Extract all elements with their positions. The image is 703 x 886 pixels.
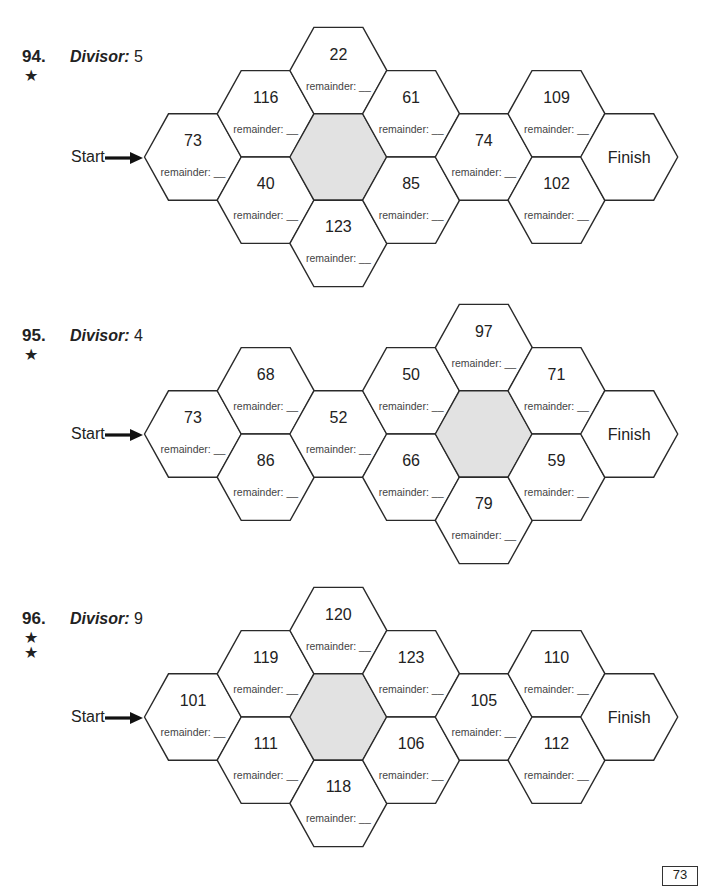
page-number-box: 73	[662, 866, 698, 886]
remainder-blank[interactable]: remainder: __	[379, 400, 444, 412]
cell-number: 102	[543, 175, 570, 192]
remainder-blank[interactable]: remainder: __	[161, 166, 226, 178]
remainder-blank[interactable]: remainder: __	[524, 769, 589, 781]
remainder-blank[interactable]: remainder: __	[379, 123, 444, 135]
cell-number: 50	[402, 366, 420, 383]
cell-number: 22	[330, 46, 348, 63]
arrow-head-icon	[130, 152, 143, 164]
remainder-blank[interactable]: remainder: __	[233, 400, 298, 412]
cell-number: 119	[253, 649, 279, 666]
remainder-blank[interactable]: remainder: __	[233, 486, 298, 498]
remainder-blank[interactable]: remainder: __	[379, 769, 444, 781]
cell-number: 59	[548, 452, 566, 469]
cell-number: 106	[398, 735, 425, 752]
remainder-blank[interactable]: remainder: __	[233, 683, 298, 695]
remainder-blank[interactable]: remainder: __	[451, 726, 516, 738]
remainder-blank[interactable]: remainder: __	[233, 209, 298, 221]
remainder-blank[interactable]: remainder: __	[524, 400, 589, 412]
remainder-blank[interactable]: remainder: __	[306, 80, 371, 92]
puzzle-95-board: 73remainder: __68remainder: __86remainde…	[105, 304, 678, 563]
cell-number: 73	[184, 132, 202, 149]
cell-number: 109	[543, 89, 570, 106]
remainder-blank[interactable]: remainder: __	[524, 123, 589, 135]
finish-label: Finish	[608, 149, 651, 166]
cell-number: 123	[325, 218, 352, 235]
cell-number: 97	[475, 323, 493, 340]
cell-number: 66	[402, 452, 420, 469]
cell-number: 101	[180, 692, 207, 709]
remainder-blank[interactable]: remainder: __	[524, 209, 589, 221]
remainder-blank[interactable]: remainder: __	[306, 443, 371, 455]
remainder-blank[interactable]: remainder: __	[451, 166, 516, 178]
cell-number: 116	[253, 89, 279, 106]
cell-number: 73	[184, 409, 202, 426]
cell-number: 74	[475, 132, 493, 149]
remainder-blank[interactable]: remainder: __	[451, 357, 516, 369]
remainder-blank[interactable]: remainder: __	[306, 252, 371, 264]
cell-number: 61	[402, 89, 420, 106]
puzzle-96-board: 101remainder: __119remainder: __111remai…	[105, 587, 678, 846]
cell-number: 40	[257, 175, 275, 192]
arrow-head-icon	[130, 712, 143, 724]
cell-number: 71	[548, 366, 566, 383]
remainder-blank[interactable]: remainder: __	[161, 726, 226, 738]
cell-number: 112	[544, 735, 570, 752]
cell-number: 120	[325, 606, 352, 623]
remainder-blank[interactable]: remainder: __	[306, 812, 371, 824]
cell-number: 68	[257, 366, 275, 383]
cell-number: 105	[470, 692, 497, 709]
remainder-blank[interactable]: remainder: __	[451, 529, 516, 541]
remainder-blank[interactable]: remainder: __	[306, 640, 371, 652]
remainder-blank[interactable]: remainder: __	[233, 769, 298, 781]
remainder-blank[interactable]: remainder: __	[524, 683, 589, 695]
cell-number: 111	[254, 735, 278, 752]
cell-number: 85	[402, 175, 420, 192]
arrow-head-icon	[130, 429, 143, 441]
cell-number: 110	[544, 649, 570, 666]
remainder-blank[interactable]: remainder: __	[379, 209, 444, 221]
remainder-blank[interactable]: remainder: __	[524, 486, 589, 498]
cell-number: 52	[330, 409, 348, 426]
cell-number: 79	[475, 495, 493, 512]
puzzle-94-board: 73remainder: __116remainder: __40remaind…	[105, 27, 678, 286]
remainder-blank[interactable]: remainder: __	[233, 123, 298, 135]
remainder-blank[interactable]: remainder: __	[379, 486, 444, 498]
remainder-blank[interactable]: remainder: __	[161, 443, 226, 455]
cell-number: 123	[398, 649, 425, 666]
cell-number: 86	[257, 452, 275, 469]
finish-label: Finish	[608, 709, 651, 726]
cell-number: 118	[326, 778, 352, 795]
finish-label: Finish	[608, 426, 651, 443]
remainder-blank[interactable]: remainder: __	[379, 683, 444, 695]
